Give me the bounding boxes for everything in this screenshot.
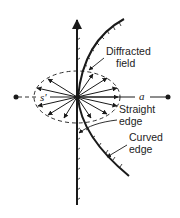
diffracted-field-label-1: Diffracted bbox=[106, 45, 151, 57]
diffraction-point bbox=[75, 95, 79, 99]
curved-edge-label-2: edge bbox=[129, 143, 153, 155]
a-label: a bbox=[139, 90, 145, 102]
curved-edge-label-1: Curved bbox=[129, 131, 163, 143]
straight-edge-label-2: edge bbox=[119, 115, 143, 127]
right-axis-dot bbox=[166, 95, 171, 100]
diffracted-field-label-2: field bbox=[116, 57, 135, 69]
s-prime-label: s' bbox=[40, 91, 47, 103]
diffracted-field-pointer bbox=[89, 58, 104, 70]
diffraction-diagram: s' a Diffracted field Straight edge Curv… bbox=[0, 0, 180, 218]
left-axis-dot bbox=[14, 95, 19, 100]
curved-edge-pointer bbox=[107, 145, 127, 157]
straight-edge-label-1: Straight bbox=[119, 103, 155, 115]
straight-edge bbox=[77, 20, 80, 205]
